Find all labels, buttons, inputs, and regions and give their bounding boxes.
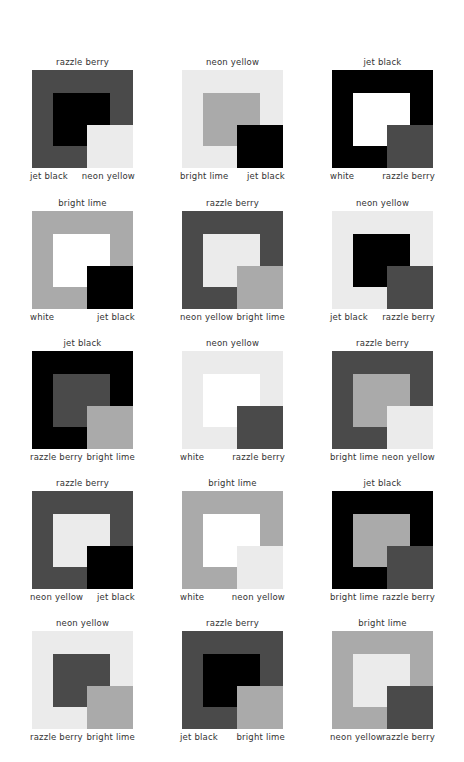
swatch-cell: bright limewhitejet black	[32, 211, 133, 331]
inner-color-label: jet black	[30, 171, 68, 181]
outer-square	[32, 491, 133, 589]
corner-color-label: razzle berry	[382, 312, 435, 322]
swatch-cell: jet blackrazzle berrybright lime	[32, 351, 133, 471]
outer-square	[332, 351, 433, 449]
corner-color-label: bright lime	[236, 312, 285, 322]
corner-color-label: razzle berry	[382, 592, 435, 602]
swatch-cell: bright limewhiteneon yellow	[182, 491, 283, 611]
outer-square	[332, 70, 433, 168]
corner-color-label: bright lime	[86, 732, 135, 742]
corner-color-label: razzle berry	[232, 452, 285, 462]
inner-color-label: bright lime	[330, 592, 379, 602]
outer-color-label: jet black	[312, 478, 453, 488]
corner-square	[387, 406, 433, 449]
corner-square	[87, 266, 133, 309]
inner-color-label: razzle berry	[30, 732, 83, 742]
outer-square	[182, 491, 283, 589]
corner-square	[387, 686, 433, 729]
inner-color-label: bright lime	[180, 171, 229, 181]
swatch-cell: jet blackwhiterazzle berry	[332, 70, 433, 190]
inner-color-label: neon yellow	[180, 312, 233, 322]
swatch-cell: neon yellowjet blackrazzle berry	[332, 211, 433, 331]
corner-square	[237, 125, 283, 168]
corner-square	[237, 266, 283, 309]
swatch-cell: bright limeneon yellowrazzle berry	[332, 631, 433, 751]
inner-color-label: white	[330, 171, 354, 181]
corner-color-label: neon yellow	[82, 171, 135, 181]
swatch-cell: razzle berryneon yellowjet black	[32, 491, 133, 611]
swatch-cell: razzle berryneon yellowbright lime	[182, 211, 283, 331]
inner-color-label: neon yellow	[330, 732, 383, 742]
outer-color-label: bright lime	[162, 478, 303, 488]
corner-square	[87, 686, 133, 729]
outer-square	[32, 631, 133, 729]
outer-color-label: razzle berry	[162, 198, 303, 208]
outer-color-label: bright lime	[312, 618, 453, 628]
outer-color-label: neon yellow	[162, 57, 303, 67]
outer-square	[182, 70, 283, 168]
swatch-cell: neon yellowwhiterazzle berry	[182, 351, 283, 471]
corner-square	[87, 406, 133, 449]
outer-color-label: bright lime	[12, 198, 153, 208]
outer-color-label: razzle berry	[162, 618, 303, 628]
corner-color-label: jet black	[97, 312, 135, 322]
corner-color-label: jet black	[247, 171, 285, 181]
swatch-cell: jet blackbright limerazzle berry	[332, 491, 433, 611]
corner-square	[387, 266, 433, 309]
outer-square	[32, 70, 133, 168]
inner-color-label: white	[30, 312, 54, 322]
corner-square	[87, 125, 133, 168]
corner-square	[237, 686, 283, 729]
corner-square	[87, 546, 133, 589]
corner-color-label: bright lime	[86, 452, 135, 462]
corner-square	[387, 546, 433, 589]
outer-color-label: jet black	[12, 338, 153, 348]
corner-square	[237, 546, 283, 589]
swatch-cell: neon yellowrazzle berrybright lime	[32, 631, 133, 751]
outer-color-label: razzle berry	[12, 57, 153, 67]
inner-color-label: jet black	[180, 732, 218, 742]
inner-color-label: white	[180, 592, 204, 602]
corner-square	[387, 125, 433, 168]
outer-square	[182, 351, 283, 449]
outer-color-label: razzle berry	[312, 338, 453, 348]
outer-color-label: neon yellow	[312, 198, 453, 208]
corner-color-label: bright lime	[236, 732, 285, 742]
corner-color-label: jet black	[97, 592, 135, 602]
corner-color-label: neon yellow	[382, 452, 435, 462]
swatch-cell: razzle berryjet blackbright lime	[182, 631, 283, 751]
inner-color-label: jet black	[330, 312, 368, 322]
outer-color-label: razzle berry	[12, 478, 153, 488]
corner-square	[237, 406, 283, 449]
corner-color-label: razzle berry	[382, 732, 435, 742]
outer-square	[332, 491, 433, 589]
inner-color-label: razzle berry	[30, 452, 83, 462]
inner-color-label: white	[180, 452, 204, 462]
inner-color-label: neon yellow	[30, 592, 83, 602]
outer-color-label: neon yellow	[12, 618, 153, 628]
outer-color-label: jet black	[312, 57, 453, 67]
outer-square	[32, 351, 133, 449]
outer-square	[332, 631, 433, 729]
corner-color-label: razzle berry	[382, 171, 435, 181]
outer-square	[182, 631, 283, 729]
outer-color-label: neon yellow	[162, 338, 303, 348]
swatch-cell: neon yellowbright limejet black	[182, 70, 283, 190]
outer-square	[332, 211, 433, 309]
corner-color-label: neon yellow	[232, 592, 285, 602]
swatch-cell: razzle berryjet blackneon yellow	[32, 70, 133, 190]
inner-color-label: bright lime	[330, 452, 379, 462]
outer-square	[32, 211, 133, 309]
swatch-cell: razzle berrybright limeneon yellow	[332, 351, 433, 471]
outer-square	[182, 211, 283, 309]
